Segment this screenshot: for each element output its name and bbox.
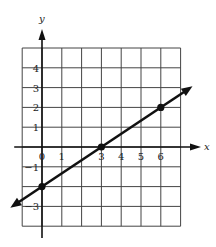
line-arrow-left-icon (10, 198, 22, 208)
line-arrow-right-icon (181, 86, 193, 96)
data-point (157, 104, 164, 111)
y-tick-label: 2 (33, 102, 39, 113)
tick-labels: 0134564321−1−3 (24, 63, 164, 213)
x-tick-label: 6 (158, 151, 164, 162)
data-point (98, 143, 105, 150)
x-tick-label: 3 (98, 151, 104, 162)
y-tick-label: 3 (33, 83, 39, 94)
y-tick-label: 4 (33, 63, 39, 74)
y-axis-arrow-icon (39, 29, 46, 40)
x-axis-arrow-icon (190, 144, 201, 151)
x-tick-label: 5 (138, 151, 144, 162)
grid (22, 48, 180, 226)
coordinate-plane: 0134564321−1−3 x y (0, 0, 216, 247)
x-axis-label: x (204, 141, 210, 152)
y-tick-label: −1 (24, 162, 39, 173)
data-point (38, 183, 45, 190)
x-tick-label: 4 (118, 151, 124, 162)
x-tick-label: 0 (39, 151, 45, 162)
y-tick-label: −3 (24, 201, 39, 212)
x-tick-label: 1 (59, 151, 65, 162)
y-axis-label: y (38, 13, 45, 24)
y-tick-label: 1 (33, 122, 39, 133)
